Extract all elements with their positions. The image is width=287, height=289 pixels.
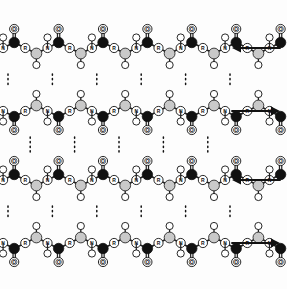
- oxygen-atom-label: O: [190, 127, 194, 133]
- sidechain-atom-label: R: [23, 177, 27, 183]
- alpha-carbon: [164, 232, 175, 243]
- hydrogen-atom: [77, 222, 84, 229]
- carbonyl-carbon: [187, 169, 197, 179]
- alpha-carbon: [75, 232, 86, 243]
- carbonyl-carbon: [98, 243, 108, 253]
- alpha-carbon: [120, 100, 131, 111]
- hydrogen-atom: [88, 250, 95, 257]
- alpha-carbon: [164, 100, 175, 111]
- hydrogen-atom: [177, 34, 184, 41]
- sidechain-atom-label: R: [157, 177, 161, 183]
- hydrogen-atom: [33, 193, 40, 200]
- carbonyl-carbon: [9, 111, 19, 121]
- hydrogen-atom: [44, 34, 51, 41]
- oxygen-atom-label: O: [234, 259, 238, 265]
- hydrogen-atom: [255, 90, 262, 97]
- carbonyl-carbon: [53, 243, 63, 253]
- oxygen-atom-label: O: [57, 259, 61, 265]
- oxygen-atom-label: O: [145, 259, 149, 265]
- oxygen-atom-label: O: [145, 26, 149, 32]
- hydrogen-atom: [133, 250, 140, 257]
- oxygen-atom-label: O: [279, 127, 283, 133]
- carbonyl-carbon: [187, 243, 197, 253]
- oxygen-atom-label: O: [279, 26, 283, 32]
- sidechain-atom-label: R: [157, 108, 161, 114]
- carbonyl-carbon: [142, 243, 152, 253]
- hydrogen-atom: [122, 193, 129, 200]
- hydrogen-atom: [0, 34, 7, 41]
- hydrogen-atom: [133, 34, 140, 41]
- carbonyl-carbon: [9, 37, 19, 47]
- alpha-carbon: [31, 100, 42, 111]
- carbonyl-carbon: [275, 111, 285, 121]
- oxygen-atom-label: O: [279, 259, 283, 265]
- oxygen-atom-label: O: [145, 158, 149, 164]
- carbonyl-carbon: [9, 243, 19, 253]
- hydrogen-atom: [33, 90, 40, 97]
- sidechain-atom-label: R: [112, 177, 116, 183]
- oxygen-atom-label: O: [190, 26, 194, 32]
- hydrogen-atom: [210, 61, 217, 68]
- alpha-carbon: [31, 48, 42, 59]
- sidechain-atom-label: R: [68, 108, 72, 114]
- carbonyl-carbon: [142, 111, 152, 121]
- hydrogen-atom: [33, 61, 40, 68]
- hydrogen-atom: [77, 61, 84, 68]
- hydrogen-atom: [210, 222, 217, 229]
- oxygen-atom-label: O: [57, 26, 61, 32]
- hydrogen-atom: [133, 118, 140, 125]
- alpha-carbon: [253, 180, 264, 191]
- hydrogen-atom: [222, 250, 229, 257]
- hydrogen-atom: [255, 193, 262, 200]
- oxygen-atom-label: O: [57, 127, 61, 133]
- sidechain-atom-label: R: [201, 240, 205, 246]
- sidechain-atom-label: R: [157, 240, 161, 246]
- sidechain-atom-label: R: [68, 45, 72, 51]
- alpha-carbon: [75, 48, 86, 59]
- oxygen-atom-label: O: [12, 158, 16, 164]
- carbonyl-carbon: [9, 169, 19, 179]
- alpha-carbon: [75, 180, 86, 191]
- hydrogen-atom: [88, 118, 95, 125]
- carbonyl-carbon: [53, 169, 63, 179]
- hydrogen-atom: [266, 166, 273, 173]
- carbonyl-carbon: [231, 243, 241, 253]
- alpha-carbon: [209, 232, 220, 243]
- oxygen-atom-label: O: [101, 26, 105, 32]
- carbonyl-carbon: [187, 37, 197, 47]
- alpha-carbon: [253, 232, 264, 243]
- hydrogen-atom: [166, 90, 173, 97]
- oxygen-atom-label: O: [234, 127, 238, 133]
- hydrogen-atom: [33, 222, 40, 229]
- alpha-carbon: [120, 180, 131, 191]
- hydrogen-atom: [44, 250, 51, 257]
- oxygen-atom-label: O: [145, 127, 149, 133]
- alpha-carbon: [209, 100, 220, 111]
- carbonyl-carbon: [275, 37, 285, 47]
- oxygen-atom-label: O: [12, 259, 16, 265]
- alpha-carbon: [31, 180, 42, 191]
- carbonyl-carbon: [98, 37, 108, 47]
- carbonyl-carbon: [142, 169, 152, 179]
- oxygen-atom-label: O: [101, 158, 105, 164]
- sidechain-atom-label: R: [23, 45, 27, 51]
- hydrogen-atom: [255, 222, 262, 229]
- sidechain-atom-label: R: [68, 177, 72, 183]
- molecular-diagram-canvas: OOOOOOONRNRNRNRNRNRNOOOOOOONRNRNRNRNRNRN…: [0, 0, 287, 289]
- hydrogen-atom: [166, 193, 173, 200]
- carbonyl-carbon: [98, 111, 108, 121]
- hydrogen-atom: [177, 250, 184, 257]
- hydrogen-atom: [0, 118, 7, 125]
- alpha-carbon: [31, 232, 42, 243]
- oxygen-atom-label: O: [190, 259, 194, 265]
- hydrogen-atom: [210, 193, 217, 200]
- sidechain-atom-label: R: [201, 45, 205, 51]
- oxygen-atom-label: O: [234, 158, 238, 164]
- alpha-carbon: [120, 232, 131, 243]
- hydrogen-atom: [177, 118, 184, 125]
- beta-sheet-figure: OOOOOOONRNRNRNRNRNRNOOOOOOONRNRNRNRNRNRN…: [0, 0, 287, 289]
- hydrogen-atom: [0, 166, 7, 173]
- alpha-carbon: [209, 180, 220, 191]
- carbonyl-carbon: [231, 111, 241, 121]
- sidechain-atom-label: R: [201, 177, 205, 183]
